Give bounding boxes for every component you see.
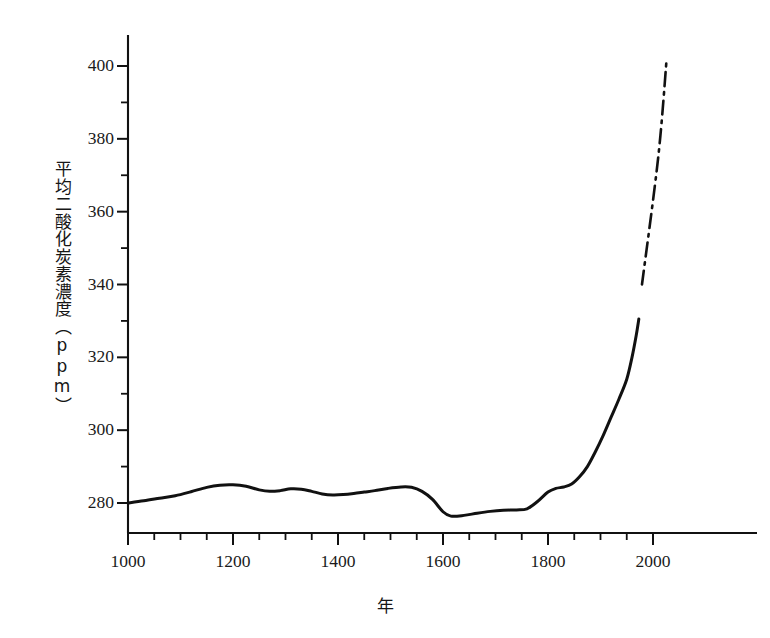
x-tick-label: 2000 bbox=[608, 551, 698, 572]
y-axis-title: 平均二酸化炭素濃度（ppm） bbox=[36, 160, 70, 414]
x-tick-label: 1800 bbox=[503, 551, 593, 572]
y-tick-label: 280 bbox=[66, 492, 114, 513]
x-tick-label: 1600 bbox=[398, 551, 488, 572]
y-tick-label: 400 bbox=[66, 55, 114, 76]
y-tick-label: 380 bbox=[66, 128, 114, 149]
co2-concentration-chart: 平均二酸化炭素濃度（ppm） 年 280300320340360380400 1… bbox=[0, 0, 770, 638]
y-axis-ticks bbox=[117, 66, 128, 503]
x-axis-title: 年 bbox=[0, 592, 770, 617]
x-axis-ticks bbox=[128, 533, 653, 545]
y-tick-label: 340 bbox=[66, 274, 114, 295]
x-tick-label: 1000 bbox=[83, 551, 173, 572]
y-tick-label: 320 bbox=[66, 346, 114, 367]
data-series-layer bbox=[128, 59, 667, 517]
y-tick-label: 360 bbox=[66, 201, 114, 222]
series-line-observed bbox=[128, 319, 639, 516]
y-tick-label: 300 bbox=[66, 419, 114, 440]
chart-canvas bbox=[0, 0, 770, 638]
x-tick-label: 1200 bbox=[188, 551, 278, 572]
x-tick-label: 1400 bbox=[293, 551, 383, 572]
series-line-projected bbox=[642, 59, 667, 285]
